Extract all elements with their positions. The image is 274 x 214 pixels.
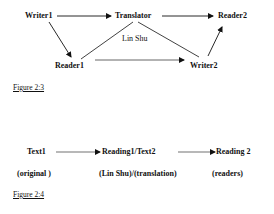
arrow-writer1-reader1 [49, 22, 71, 57]
node-writer1: Writer1 [25, 11, 52, 21]
caption-figure-2-4: Figure 2:4 [13, 190, 44, 199]
node-text1: Text1 [27, 147, 46, 157]
caption-figure-2-3: Figure 2:3 [13, 83, 44, 92]
diagram-arrows [0, 0, 274, 214]
node-reading1-text2: Reading1/Text2 [102, 147, 156, 157]
node-writer2: Writer2 [190, 61, 217, 71]
arrow-writer2-reader2 [208, 27, 222, 56]
label-lin-shu: Lin Shu [122, 34, 148, 44]
node-reader2: Reader2 [218, 11, 247, 21]
label-original: (original ) [17, 169, 51, 179]
node-reader1: Reader1 [55, 61, 84, 71]
node-reading2: Reading 2 [216, 147, 250, 157]
label-lin-shu-translation: (Lin Shu)/(translation) [99, 169, 177, 179]
node-translator: Translator [115, 11, 151, 21]
label-readers: (readers) [212, 169, 243, 179]
